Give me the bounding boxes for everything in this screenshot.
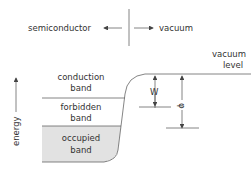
vacuum-label: vacuum bbox=[159, 23, 193, 33]
forbidden-band-label-1: forbidden bbox=[61, 102, 102, 112]
vacuum-level-label-1: vacuum bbox=[212, 49, 246, 59]
conduction-band-label-1: conduction bbox=[58, 72, 105, 82]
semiconductor-label: semiconductor bbox=[28, 23, 92, 33]
work-function-w-label: W bbox=[150, 87, 159, 97]
forbidden-band-label-2: band bbox=[70, 113, 91, 123]
occupied-band-label-2: band bbox=[70, 145, 91, 155]
occupied-band-label-1: occupied bbox=[62, 133, 100, 143]
vacuum-level-label-2: level bbox=[223, 60, 243, 70]
energy-axis-label: energy bbox=[11, 116, 21, 146]
surface-barrier-curve bbox=[104, 74, 251, 162]
phi-label: φ bbox=[177, 103, 187, 109]
conduction-band-label-2: band bbox=[70, 83, 91, 93]
band-diagram: semiconductor vacuum energy W bbox=[0, 0, 251, 170]
